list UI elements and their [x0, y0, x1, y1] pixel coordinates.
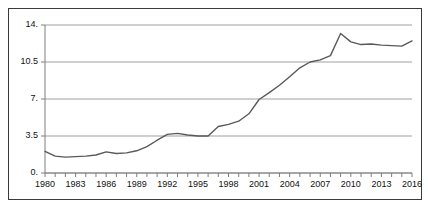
x-tick-marks-group: [45, 173, 412, 177]
x-axis-tick-label: 2007: [303, 179, 337, 189]
y-axis-tick-label: 7.: [8, 93, 38, 103]
x-axis-tick-label: 2010: [334, 179, 368, 189]
y-axis-tick-label: 10.5: [8, 56, 38, 66]
gridlines-group: [41, 25, 412, 173]
x-axis-tick-label: 1998: [212, 179, 246, 189]
y-axis-tick-label: 0.: [8, 167, 38, 177]
x-axis-tick-label: 2001: [242, 179, 276, 189]
y-axis-tick-label: 3.5: [8, 130, 38, 140]
y-axis-tick-label: 14.: [8, 19, 38, 29]
chart-page: 0.3.57.10.514. 1980198319861989199219951…: [0, 0, 428, 210]
x-axis-tick-label: 1980: [28, 179, 62, 189]
x-axis-tick-label: 2013: [364, 179, 398, 189]
chart-plot-area: 0.3.57.10.514. 1980198319861989199219951…: [0, 0, 428, 210]
data-series-line: [45, 33, 412, 157]
x-axis-tick-label: 1986: [89, 179, 123, 189]
x-axis-tick-label: 1992: [150, 179, 184, 189]
x-axis-tick-label: 2016: [395, 179, 428, 189]
x-axis-tick-label: 1995: [181, 179, 215, 189]
x-axis-tick-label: 2004: [273, 179, 307, 189]
x-axis-tick-label: 1989: [120, 179, 154, 189]
x-axis-tick-label: 1983: [59, 179, 93, 189]
